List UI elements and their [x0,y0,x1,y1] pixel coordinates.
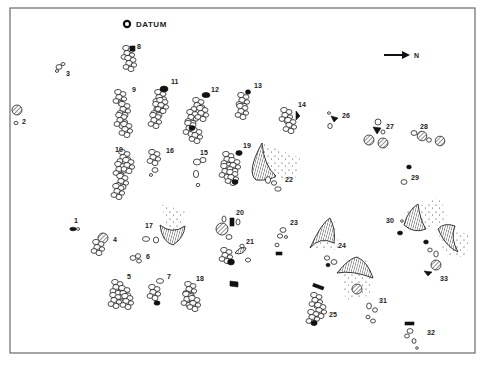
feature-label-25: 25 [329,311,337,318]
feature-6-drawing [130,254,141,263]
feature-8-drawing [121,45,137,71]
datum-label: DATUM [136,20,167,29]
feature-29-drawing [401,165,411,184]
feature-label-13: 13 [254,82,262,89]
feature-19-drawing [219,151,242,186]
feature-2-drawing [12,105,22,125]
feature-label-16: 16 [166,147,174,154]
feature-23-drawing [275,228,288,255]
feature-label-33: 33 [440,275,448,282]
feature-label-3: 3 [66,70,70,77]
feature-label-30: 30 [386,217,394,224]
site-plan-diagram: DATUM N [0,0,484,375]
feature-label-4: 4 [113,236,117,243]
feature-label-11: 11 [171,78,179,85]
feature-label-23: 23 [290,219,298,226]
feature-33-drawing [424,240,441,276]
feature-25-drawing [306,283,327,325]
north-arrow: N [384,51,419,59]
feature-7-drawing [147,279,164,306]
feature-31-drawing [366,303,377,323]
feature-33-fan-drawing [438,225,470,258]
feature-21-drawing [219,244,251,265]
feature-label-27: 27 [386,123,394,130]
feature-19-fan-drawing [252,143,300,180]
feature-10-drawing [111,149,135,199]
feature-5-drawing [108,279,134,309]
feature-label-19: 19 [243,142,251,149]
feature-black-stone [230,281,238,287]
feature-15-drawing [193,157,206,186]
feature-label-17: 17 [145,222,153,229]
feature-label-14: 14 [298,101,306,108]
feature-label-1: 1 [74,217,78,224]
feature-label-28: 28 [420,123,428,130]
feature-26-drawing [327,112,338,129]
feature-11-drawing [148,86,169,129]
north-label: N [414,52,419,59]
feature-18-drawing [181,281,201,311]
feature-label-24: 24 [338,242,346,249]
feature-24-fan-drawing [337,257,373,300]
feature-label-10: 10 [115,146,123,153]
feature-label-18: 18 [196,275,204,282]
feature-12-drawing [183,92,210,143]
feature-label-29: 29 [411,174,419,181]
feature-label-12: 12 [211,86,219,93]
feature-label-7: 7 [167,273,171,280]
datum-marker: DATUM [123,20,167,29]
feature-label-26: 26 [342,112,350,119]
feature-label-20: 20 [236,209,244,216]
feature-label-15: 15 [200,149,208,156]
feature-13-drawing [235,90,251,120]
feature-label-8: 8 [137,43,141,50]
feature-label-22: 22 [285,176,293,183]
feature-label-9: 9 [132,86,136,93]
feature-32-drawing [405,322,419,349]
feature-28-drawing [411,131,445,146]
feature-label-21: 21 [246,238,254,245]
feature-label-6: 6 [146,253,150,260]
feature-label-5: 5 [127,273,131,280]
feature-label-2: 2 [22,118,26,125]
feature-27-drawing [364,119,388,148]
feature-label-32: 32 [427,329,435,336]
feature-labels: 1 2 3 4 5 6 7 8 9 10 11 12 13 14 15 16 1… [22,43,448,336]
feature-label-31: 31 [379,297,387,304]
feature-3-drawing [55,63,65,73]
feature-1-drawing [70,227,80,231]
feature-14-drawing [279,107,300,133]
feature-20-drawing [216,216,240,239]
feature-9-drawing [113,89,133,137]
feature-4-drawing [91,233,108,256]
feature-16-drawing [147,149,161,176]
feature-24-drawing [310,218,340,267]
